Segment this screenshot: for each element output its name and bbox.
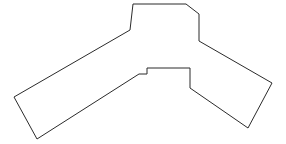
diagram-canvas [0,0,286,144]
polygon-shape-svg [0,0,286,144]
